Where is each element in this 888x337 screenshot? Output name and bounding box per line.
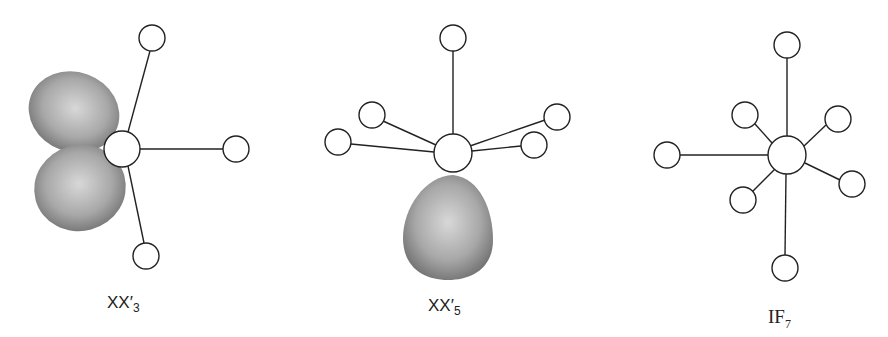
- label-subscript: 3: [133, 301, 140, 315]
- terminal-atom: [774, 32, 800, 58]
- bond: [351, 144, 434, 152]
- terminal-atom: [825, 106, 851, 132]
- label-text: XX′: [107, 293, 133, 312]
- terminal-atom: [139, 25, 165, 51]
- label-xx3: XX′3: [107, 293, 140, 315]
- label-xx5: XX′5: [428, 296, 461, 318]
- terminal-atom: [133, 243, 159, 269]
- bond: [128, 51, 150, 132]
- lone-pair-lobe: [403, 175, 493, 280]
- bond: [755, 124, 772, 143]
- terminal-atom: [521, 132, 547, 158]
- bond: [128, 166, 144, 243]
- terminal-atom: [440, 25, 466, 51]
- terminal-atom: [772, 255, 798, 281]
- bond: [752, 168, 776, 192]
- label-subscript: 7: [785, 317, 791, 331]
- central-atom: [434, 134, 472, 172]
- terminal-atom: [732, 102, 758, 128]
- label-text: IF: [768, 306, 785, 327]
- terminal-atom: [730, 187, 756, 213]
- terminal-atom: [359, 102, 385, 128]
- label-if7: IF7: [768, 306, 791, 332]
- bond: [472, 146, 521, 151]
- bond: [805, 163, 840, 180]
- terminal-atom: [544, 104, 570, 130]
- bond: [785, 174, 786, 255]
- bond: [804, 125, 826, 146]
- terminal-atom: [325, 129, 351, 155]
- terminal-atom: [654, 142, 680, 168]
- molecule-xx3: [17, 25, 249, 269]
- central-atom: [104, 131, 140, 167]
- molecule-if7: [654, 32, 865, 281]
- molecule-xx5: [325, 25, 570, 280]
- interhalogen-geometry-figure: [0, 0, 888, 337]
- label-subscript: 5: [454, 304, 461, 318]
- central-atom: [768, 136, 806, 174]
- terminal-atom: [839, 171, 865, 197]
- bond: [383, 121, 436, 145]
- label-text: XX′: [428, 296, 454, 315]
- terminal-atom: [223, 136, 249, 162]
